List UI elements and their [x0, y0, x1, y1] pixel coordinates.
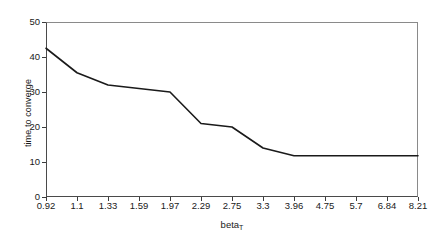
x-axis-title-text: beta	[221, 219, 240, 230]
y-tick-mark	[42, 92, 46, 93]
y-tick-label: 30	[20, 87, 40, 97]
y-tick-label: 10	[20, 157, 40, 167]
x-tick-mark	[170, 197, 171, 201]
x-tick-mark	[387, 197, 388, 201]
x-tick-mark	[139, 197, 140, 201]
x-tick-label: 4.75	[316, 201, 335, 211]
y-tick-label: 40	[20, 52, 40, 62]
x-tick-mark	[108, 197, 109, 201]
x-axis-title: betaT	[46, 219, 418, 230]
y-tick-mark	[42, 127, 46, 128]
x-axis-tick-labels: 0.921.11.331.591.972.292.753.33.964.755.…	[46, 201, 418, 215]
y-tick-label: 50	[20, 17, 40, 27]
x-tick-label: 6.84	[378, 201, 397, 211]
x-tick-label: 1.1	[70, 201, 83, 211]
y-tick-label: 20	[20, 122, 40, 132]
x-tick-mark	[263, 197, 264, 201]
y-tick-mark	[42, 57, 46, 58]
x-tick-label: 2.75	[223, 201, 242, 211]
x-tick-label: 1.97	[161, 201, 180, 211]
x-tick-label: 0.92	[37, 201, 56, 211]
x-tick-label: 3.3	[256, 201, 269, 211]
x-tick-label: 3.96	[285, 201, 304, 211]
x-tick-label: 5.7	[349, 201, 362, 211]
x-tick-mark	[46, 197, 47, 201]
data-series-line	[46, 22, 418, 197]
x-tick-mark	[418, 197, 419, 201]
x-tick-mark	[232, 197, 233, 201]
x-tick-label: 8.21	[409, 201, 428, 211]
x-tick-mark	[356, 197, 357, 201]
x-tick-mark	[325, 197, 326, 201]
y-tick-mark	[42, 162, 46, 163]
x-tick-label: 1.59	[130, 201, 149, 211]
x-axis-title-subscript: T	[239, 224, 243, 231]
x-tick-mark	[201, 197, 202, 201]
series-polyline	[46, 48, 418, 155]
chart-figure: time to converge 01020304050 0.921.11.33…	[0, 0, 437, 243]
x-tick-label: 1.33	[99, 201, 118, 211]
x-tick-label: 2.29	[192, 201, 211, 211]
x-tick-mark	[294, 197, 295, 201]
x-tick-mark	[77, 197, 78, 201]
y-tick-mark	[42, 22, 46, 23]
